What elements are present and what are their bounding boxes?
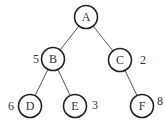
node-c-label: C [116, 53, 124, 67]
node-d-weight: 6 [8, 99, 14, 113]
node-e-weight: 3 [92, 98, 98, 112]
node-f-label: F [139, 99, 146, 113]
node-b: B [42, 48, 65, 71]
node-b-label: B [49, 52, 57, 66]
node-a-label: A [82, 10, 91, 24]
tree-diagram: A B 5 C 2 D 6 E 3 F 8 [0, 0, 165, 128]
node-e-label: E [71, 99, 78, 113]
node-f: F [131, 95, 154, 118]
node-a: A [75, 6, 98, 29]
node-d: D [19, 95, 42, 118]
node-c-weight: 2 [140, 53, 146, 67]
node-f-weight: 8 [157, 94, 163, 108]
node-b-weight: 5 [33, 52, 39, 66]
node-d-label: D [26, 99, 35, 113]
node-e: E [64, 95, 87, 118]
node-c: C [109, 49, 132, 72]
